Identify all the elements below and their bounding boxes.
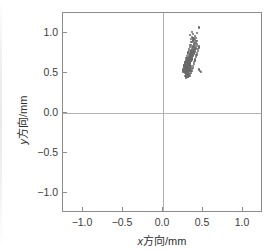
scatter-point [189,44,191,46]
scatter-point [190,70,192,72]
scatter-point [195,54,197,56]
scatter-point [192,65,194,67]
y-axis-label: y方向/mm [14,60,30,180]
y-tick-label: 1.0 [43,26,58,38]
x-tick-label: 0.0 [155,216,170,228]
x-axis-label-unit: 方向/mm [143,235,186,247]
x-tick-mark [202,207,203,212]
scatter-point [194,35,196,37]
y-tick-mark [62,32,67,33]
x-tick-mark [122,207,123,212]
y-tick-label: 0.0 [43,106,58,118]
x-tick-mark [82,207,83,212]
y-tick-label: −0.5 [37,146,58,158]
scatter-point [198,26,200,28]
left-edge-artifact [0,0,2,250]
gridline-horizontal-zero [63,113,261,114]
x-tick-label: −0.5 [112,216,133,228]
x-tick-mark [242,207,243,212]
scatter-point [190,72,192,74]
x-tick-mark [162,207,163,212]
y-axis-label-variable: y [17,139,29,145]
scatter-point [193,63,195,65]
scatter-point [196,32,198,34]
scatter-point [198,45,200,47]
plot-area [63,13,261,211]
y-tick-mark [62,72,67,73]
y-tick-label: −1.0 [37,186,58,198]
scatter-point [195,37,197,39]
scatter-point [196,52,198,54]
scatter-point [185,76,187,78]
scatter-point [189,46,191,48]
scatter-plot-figure: −1.0−0.50.00.51.0 −1.0−0.50.00.51.0 x方向/… [0,0,272,250]
y-tick-label: 0.5 [43,66,58,78]
scatter-point [191,31,193,33]
plot-frame [62,12,262,212]
y-axis-label-unit: 方向/mm [17,96,29,139]
x-axis-label: x方向/mm [62,232,262,248]
x-tick-label: 1.0 [235,216,250,228]
y-tick-mark [62,192,67,193]
scatter-point [197,50,199,52]
y-tick-mark [62,152,67,153]
x-tick-label: 0.5 [195,216,210,228]
gridline-vertical-zero [163,13,164,211]
y-tick-mark [62,112,67,113]
x-tick-label: −1.0 [72,216,93,228]
